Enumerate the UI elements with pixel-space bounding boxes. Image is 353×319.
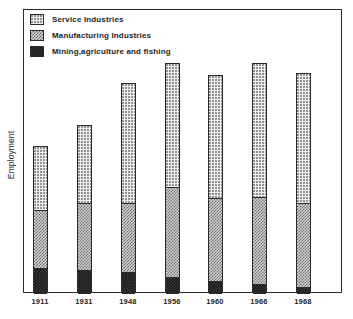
stacked-bar-chart: Employment Service Industries Manufactur… (0, 0, 353, 319)
bar-segment-mining (209, 282, 222, 294)
bar-segment-service (297, 74, 310, 204)
bar-segment-manufacturing (122, 204, 135, 273)
bar-segment-mining (166, 278, 179, 294)
bar-stack (252, 63, 267, 293)
bar-segment-service (209, 76, 222, 199)
bar-segment-service (122, 84, 135, 204)
bar-stack (121, 83, 136, 293)
x-axis-labels: 1911193119481956196019661968 (0, 297, 353, 311)
x-axis-tick-label: 1960 (195, 297, 235, 306)
bar-segment-mining (297, 288, 310, 294)
bar-stack (208, 75, 223, 293)
x-axis-tick-label: 1948 (108, 297, 148, 306)
bar-segment-service (253, 64, 266, 198)
bar-stack (77, 125, 92, 293)
bars-layer (0, 0, 353, 319)
bar-segment-manufacturing (209, 199, 222, 282)
bar-segment-service (166, 64, 179, 188)
x-axis-tick-label: 1911 (20, 297, 60, 306)
bar-segment-service (78, 126, 91, 204)
bar-segment-manufacturing (297, 204, 310, 288)
bar-segment-manufacturing (253, 198, 266, 285)
bar-segment-mining (34, 269, 47, 294)
bar-segment-mining (78, 271, 91, 294)
x-axis-tick-label: 1931 (64, 297, 104, 306)
bar-stack (33, 146, 48, 293)
bar-stack (296, 73, 311, 293)
bar-segment-service (34, 147, 47, 211)
bar-segment-manufacturing (34, 211, 47, 269)
bar-segment-manufacturing (166, 188, 179, 278)
bar-stack (165, 63, 180, 293)
bar-segment-mining (122, 273, 135, 294)
bar-segment-manufacturing (78, 204, 91, 271)
x-axis-tick-label: 1956 (152, 297, 192, 306)
x-axis-tick-label: 1966 (239, 297, 279, 306)
x-axis-tick-label: 1968 (283, 297, 323, 306)
bar-segment-mining (253, 285, 266, 294)
